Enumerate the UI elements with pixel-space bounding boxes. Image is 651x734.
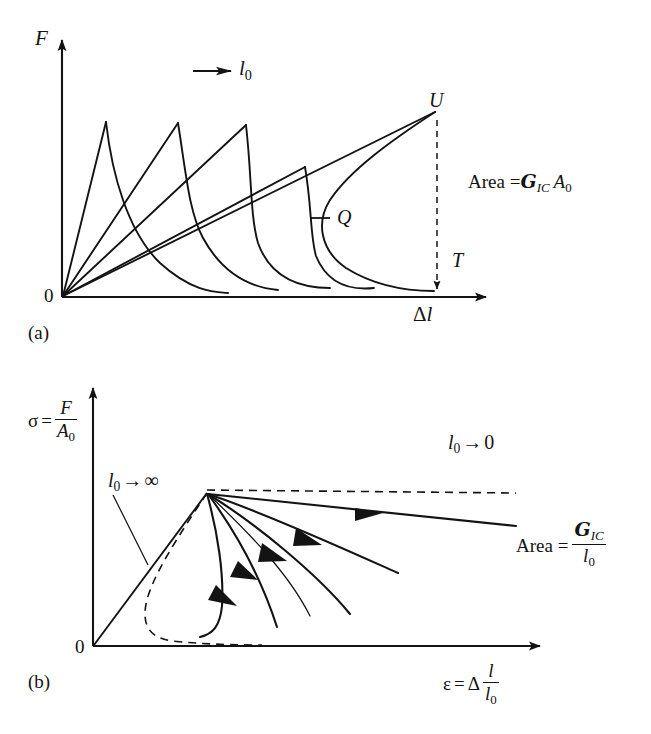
panel-b-limit-inf-label: l0→∞ [108, 470, 159, 494]
panel-a-area-text: Area = [468, 171, 520, 192]
figure-root: F Δl 0 l0 U Q T Area =GICA0 (a) σ= F A0 … [0, 0, 651, 734]
panel-a-x-axis-var: l [427, 302, 433, 326]
panel-b-y-axis-label: σ= F A0 [28, 398, 77, 444]
panel-b-x-fraction: l l0 [483, 661, 499, 707]
panel-b-limit-zero-arrow: → [460, 431, 484, 453]
panel-b-y-fraction: F A0 [55, 398, 77, 444]
panel-b-area-den-sub: 0 [588, 554, 594, 569]
panel-b-graph [93, 388, 540, 646]
panel-a-l0-note-sub: 0 [245, 67, 252, 83]
panel-a-area-g-sub: IC [537, 180, 550, 195]
panel-b-y-denominator: A0 [55, 420, 77, 444]
panel-b-x-denominator: l0 [483, 683, 499, 707]
panel-b-origin-label: 0 [75, 637, 85, 656]
panel-b-y-den-sub: 0 [69, 429, 75, 444]
panel-b-branch-6 [200, 494, 222, 637]
panel-b-area-g-glyph: G [574, 518, 590, 540]
panel-a-point-t-label: T [452, 250, 463, 270]
panel-b-elastic-branch [94, 493, 207, 645]
panel-a-graph [62, 40, 486, 297]
panel-a-point-q-label: Q [337, 207, 351, 227]
panel-b-limit-inf-arrow: → [120, 469, 144, 491]
panel-a-origin-label: 0 [44, 286, 54, 305]
panel-a-x-axis-label: Δl [413, 304, 432, 325]
panel-b-y-den-a: A [57, 420, 69, 441]
panel-b-limit-l0-to-zero [207, 490, 516, 493]
panel-a-area-a-sub: 0 [565, 180, 571, 195]
panel-b-branch-3 [208, 494, 350, 614]
panel-b-limit-zero-value: 0 [484, 431, 494, 453]
panel-b-area-numerator: GIC [572, 520, 605, 545]
panel-b-limit-zero-label: l0→0 [448, 432, 494, 456]
panel-b-x-numerator: l [483, 661, 499, 683]
panel-b-x-eps: ε [443, 673, 451, 694]
figure-canvas [0, 0, 651, 734]
panel-b-y-equals: = [38, 410, 55, 431]
panel-b-area-denominator: l0 [572, 545, 605, 569]
panel-b-limit-inf-leader [113, 495, 148, 565]
panel-b-limit-inf-value: ∞ [144, 469, 158, 491]
panel-a-y-axis-label: F [35, 28, 48, 49]
panel-b-tag: (b) [28, 672, 50, 691]
panel-a-point-u-label: U [429, 90, 443, 110]
panel-a-tag: (a) [28, 323, 49, 342]
panel-a-l0-note: l0 [239, 58, 252, 82]
panel-a-x-axis-delta: Δ [413, 302, 427, 326]
panel-b-area-annotation: Area = GIC l0 [516, 520, 606, 568]
panel-a-area-a: A [550, 171, 566, 192]
panel-b-area-text: Area = [516, 535, 568, 556]
panel-b-x-equals: = [451, 673, 468, 694]
panel-b-x-axis-label: ε=Δ l l0 [443, 661, 499, 707]
panel-b-y-numerator: F [55, 398, 77, 420]
panel-b-area-fraction: GIC l0 [572, 520, 605, 568]
panel-a-area-g-glyph: G [520, 170, 536, 192]
panel-a-area-annotation: Area =GICA0 [468, 172, 572, 195]
panel-b-x-delta: Δ [468, 673, 480, 694]
panel-a-loading-lines [63, 112, 435, 296]
panel-b-x-den-sub: 0 [490, 692, 496, 707]
panel-b-y-sigma: σ [28, 410, 38, 431]
panel-b-area-g-sub: IC [591, 528, 604, 543]
panel-a-softening-branches [106, 112, 435, 293]
